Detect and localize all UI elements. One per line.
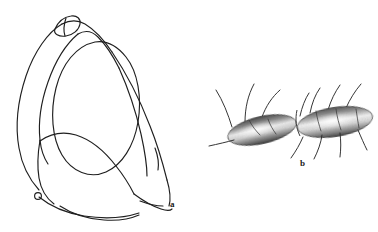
figure-a-papilla-circle [35, 193, 42, 200]
illustration-canvas [0, 0, 378, 232]
figure-a-outer-margin [17, 24, 62, 190]
figure-a-right-accessory-fold [155, 148, 158, 170]
seta-dorsal-4 [310, 88, 320, 113]
figure-a-ventral-margin [39, 197, 139, 218]
figure-a-ventrolateral-papilla [35, 193, 42, 200]
figure-a-apex-margin [62, 21, 112, 52]
seta-ventral-1 [291, 137, 303, 158]
figure-a-lower-lobe-left [38, 140, 54, 204]
figure-b-label: b [300, 159, 305, 168]
figure-plate: a b [0, 0, 378, 232]
figure-a-inner-oval [53, 42, 140, 175]
figure-a-inner-band-left [39, 34, 78, 164]
seta-dorsal-7 [300, 93, 309, 116]
figure-a-papilla-division [64, 18, 66, 36]
seta-dorsal-1 [216, 90, 232, 127]
seta-ventral-2 [314, 135, 322, 159]
seta-dorsal-3 [262, 90, 280, 117]
figure-b-shaded-drawing [209, 84, 375, 159]
figure-a-label: a [170, 200, 175, 209]
figure-b-segment-distal [295, 102, 375, 143]
seta-ventral-4 [358, 130, 367, 150]
seta-dorsal-2 [245, 84, 254, 122]
figure-b-segment-proximal [225, 109, 299, 151]
seta-ventral-3 [340, 133, 341, 157]
figure-a-lower-lobe-crest [40, 133, 134, 194]
figure-a-ventral-right-lobe [134, 194, 172, 211]
figure-a-interior-fold [119, 68, 147, 176]
figure-a-inner-band-top [78, 32, 119, 68]
seta-dorsal-6 [346, 84, 361, 108]
figure-a-outline-drawing [17, 16, 172, 220]
seta-dorsal-5 [328, 85, 340, 110]
seta-basal-long [209, 140, 234, 146]
